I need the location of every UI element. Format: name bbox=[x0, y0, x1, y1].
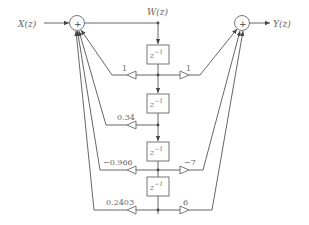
gain-label: 6 bbox=[183, 198, 188, 207]
gain-label: 0.34 bbox=[117, 113, 135, 122]
right-adder: + bbox=[235, 16, 250, 31]
feedforward-tap-1: 1 bbox=[158, 29, 237, 79]
filter-diagram: X(z) + W(z) + Y(z) z−1 z−1 z−1 z−1 bbox=[0, 0, 309, 225]
delay-1: z−1 bbox=[147, 45, 169, 64]
input-label: X(z) bbox=[17, 19, 37, 29]
adder-plus-icon: + bbox=[239, 19, 247, 29]
feedback-tap-1: 1 bbox=[81, 30, 158, 79]
gain-label: 1 bbox=[122, 64, 127, 73]
delay-3: z−1 bbox=[147, 142, 169, 161]
delay-4: z−1 bbox=[147, 177, 169, 196]
delay-2: z−1 bbox=[147, 94, 169, 113]
adder-plus-icon: + bbox=[74, 19, 82, 29]
output-label: Y(z) bbox=[273, 19, 291, 29]
left-adder: + bbox=[70, 16, 85, 31]
state-label: W(z) bbox=[147, 7, 169, 17]
gain-label: 0.2403 bbox=[106, 198, 134, 207]
feedforward-tap-2: −7 bbox=[158, 31, 240, 174]
feedforward-tap-3: 6 bbox=[158, 31, 243, 214]
gain-label: −7 bbox=[184, 158, 196, 167]
feedback-tap-4: 0.2403 bbox=[76, 31, 158, 214]
feedback-tap-3: −0.966 bbox=[78, 31, 159, 174]
gain-label: −0.966 bbox=[103, 158, 133, 167]
gain-label: 1 bbox=[186, 64, 191, 73]
